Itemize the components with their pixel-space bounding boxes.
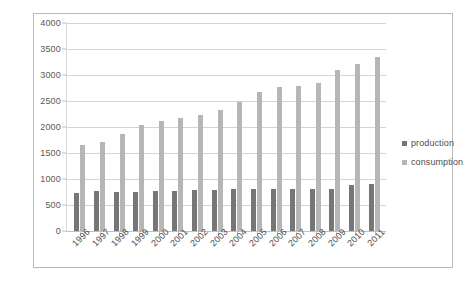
- x-axis-label-cell: 2005: [247, 232, 267, 272]
- bar-consumption: [296, 86, 301, 231]
- bars-layer: [67, 23, 386, 231]
- x-axis-label-cell: 2002: [188, 232, 208, 272]
- chart-legend: productionconsumption: [402, 138, 466, 176]
- bar-group: [149, 23, 169, 231]
- bar-group: [129, 23, 149, 231]
- bar-consumption: [257, 92, 262, 231]
- legend-item-production[interactable]: production: [402, 138, 466, 148]
- x-axis-label-cell: 1998: [109, 232, 129, 272]
- bar-group: [168, 23, 188, 231]
- legend-swatch-icon: [402, 141, 407, 146]
- y-axis-tick-mark: [62, 127, 66, 128]
- bar-production: [133, 192, 138, 231]
- bar-group: [325, 23, 345, 231]
- bar-consumption: [139, 125, 144, 231]
- bar-production: [349, 185, 354, 231]
- bar-consumption: [375, 57, 380, 231]
- y-axis-tick-mark: [62, 23, 66, 24]
- x-axis-label-cell: 2003: [208, 232, 228, 272]
- bar-consumption: [120, 134, 125, 231]
- bar-production: [74, 193, 79, 231]
- bar-consumption: [178, 118, 183, 231]
- y-axis-tick-label: 1500: [40, 148, 61, 158]
- y-axis-tick-mark: [62, 101, 66, 102]
- x-axis-label-cell: 1999: [129, 232, 149, 272]
- y-axis-tick-mark: [62, 231, 66, 232]
- x-axis-label-cell: 1996: [70, 232, 90, 272]
- bar-production: [114, 192, 119, 231]
- x-axis-label-cell: 2007: [287, 232, 307, 272]
- bar-consumption: [355, 64, 360, 231]
- x-axis-label-cell: 2011: [365, 232, 385, 272]
- y-axis-tick-mark: [62, 179, 66, 180]
- y-axis-tick-label: 2000: [40, 122, 61, 132]
- x-axis-label-cell: 2004: [228, 232, 248, 272]
- bar-group: [345, 23, 365, 231]
- legend-swatch-icon: [402, 160, 407, 165]
- bar-production: [329, 189, 334, 231]
- bar-consumption: [198, 115, 203, 231]
- bar-consumption: [159, 121, 164, 231]
- x-axis-label-cell: 2000: [149, 232, 169, 272]
- bar-group: [286, 23, 306, 231]
- x-axis-label-cell: 2010: [346, 232, 366, 272]
- legend-item-label: production: [411, 138, 454, 148]
- legend-item-label: consumption: [411, 157, 463, 167]
- bar-production: [153, 191, 158, 231]
- y-axis-tick-label: 500: [45, 200, 61, 210]
- bar-production: [212, 190, 217, 231]
- bar-consumption: [316, 83, 321, 231]
- bar-consumption: [335, 70, 340, 231]
- bar-production: [290, 189, 295, 231]
- bar-production: [94, 191, 99, 231]
- bar-consumption: [218, 110, 223, 231]
- x-axis-label-cell: 2008: [306, 232, 326, 272]
- bar-group: [90, 23, 110, 231]
- y-axis-tick-label: 4000: [40, 18, 61, 28]
- legend-item-consumption[interactable]: consumption: [402, 157, 466, 167]
- bar-group: [364, 23, 384, 231]
- y-axis-tick-label: 2500: [40, 96, 61, 106]
- bar-consumption: [80, 145, 85, 231]
- y-axis-tick-mark: [62, 75, 66, 76]
- bar-group: [306, 23, 326, 231]
- x-axis-labels: 1996199719981999200020012002200320042005…: [67, 232, 387, 272]
- x-axis-label-cell: 2001: [168, 232, 188, 272]
- bar-production: [369, 184, 374, 231]
- y-axis-tick-mark: [62, 153, 66, 154]
- y-axis-tick-label: 3500: [40, 44, 61, 54]
- y-axis-tick-label: 1000: [40, 174, 61, 184]
- bar-production: [251, 189, 256, 231]
- bar-group: [70, 23, 90, 231]
- bar-group: [266, 23, 286, 231]
- y-axis-tick-label: 3000: [40, 70, 61, 80]
- bar-production: [172, 191, 177, 231]
- y-axis-tick-mark: [62, 205, 66, 206]
- bar-group: [207, 23, 227, 231]
- bar-production: [310, 189, 315, 231]
- x-axis-label-cell: 2009: [326, 232, 346, 272]
- x-axis-label-cell: 2006: [267, 232, 287, 272]
- bar-consumption: [277, 87, 282, 231]
- bar-consumption: [237, 102, 242, 231]
- chart-container: 05001000150020002500300035004000 1996199…: [33, 13, 453, 268]
- bar-production: [231, 189, 236, 231]
- x-axis-label-cell: 1997: [90, 232, 110, 272]
- plot-area: 05001000150020002500300035004000: [66, 23, 386, 231]
- y-axis-tick-label: 0: [56, 226, 61, 236]
- bar-group: [247, 23, 267, 231]
- y-axis-tick-mark: [62, 49, 66, 50]
- bar-group: [227, 23, 247, 231]
- bar-production: [271, 189, 276, 231]
- bar-production: [192, 190, 197, 231]
- bar-consumption: [100, 142, 105, 231]
- bar-group: [109, 23, 129, 231]
- bar-group: [188, 23, 208, 231]
